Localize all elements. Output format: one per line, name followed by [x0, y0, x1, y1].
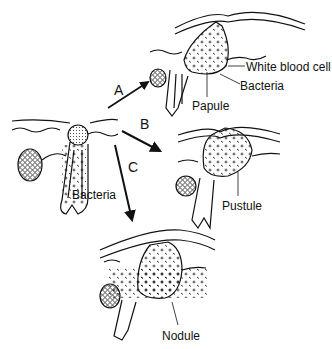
papule-label: Papule	[192, 100, 229, 112]
nodule-label: Nodule	[162, 330, 200, 342]
arrow-c	[115, 145, 132, 220]
origin-bacteria-label: Bacteria	[72, 189, 116, 201]
diagram-canvas	[0, 0, 332, 349]
papule-bacteria-label: Bacteria	[240, 80, 284, 92]
arrow-b	[122, 131, 160, 151]
papule-wbc-label: White blood cell	[246, 61, 331, 73]
nodule-lesion	[100, 230, 215, 340]
arrow-c-label: C	[128, 160, 138, 174]
pustule-label: Pustule	[222, 200, 262, 212]
arrow-b-label: B	[140, 117, 149, 131]
arrow-a-label: A	[114, 83, 123, 97]
